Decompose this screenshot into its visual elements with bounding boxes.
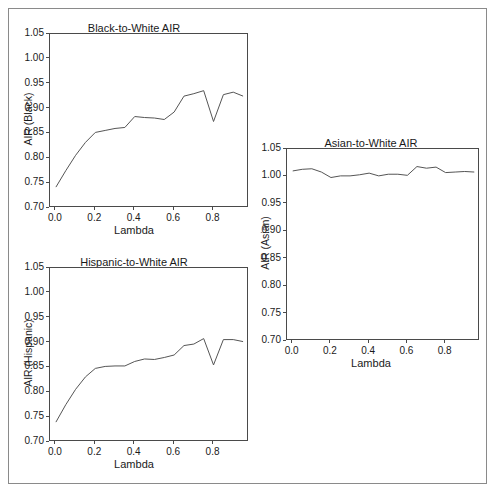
y-tick-mark: [46, 107, 49, 108]
x-tick-label: 0.4: [120, 212, 148, 223]
y-tick-mark: [283, 175, 286, 176]
y-tick-label: 0.90: [250, 224, 281, 235]
x-tick-label: 0.2: [80, 212, 108, 223]
y-tick-mark: [46, 82, 49, 83]
x-tick-label: 0.6: [159, 212, 187, 223]
y-tick-label: 0.80: [250, 279, 281, 290]
x-axis-label-hispanic: Lambda: [14, 458, 254, 470]
x-tick-label: 0.0: [41, 446, 69, 457]
x-tick-mark: [329, 340, 330, 343]
x-tick-label: 0.2: [80, 446, 108, 457]
y-axis-label-hispanic: AIR (Hispanic): [22, 318, 34, 388]
y-tick-mark: [46, 132, 49, 133]
y-tick-label: 1.00: [13, 52, 44, 63]
y-tick-label: 1.00: [13, 286, 44, 297]
x-tick-mark: [173, 441, 174, 444]
y-tick-mark: [46, 267, 49, 268]
plot-area-black: [49, 33, 248, 207]
y-tick-mark: [46, 57, 49, 58]
y-tick-mark: [283, 340, 286, 341]
y-tick-label: 1.05: [13, 261, 44, 272]
x-tick-label: 0.6: [159, 446, 187, 457]
x-tick-mark: [291, 340, 292, 343]
y-axis-label-black: AIR (Black): [22, 84, 34, 154]
x-tick-mark: [444, 340, 445, 343]
x-tick-mark: [212, 441, 213, 444]
x-tick-mark: [173, 207, 174, 210]
y-tick-label: 0.75: [250, 307, 281, 318]
y-tick-mark: [46, 341, 49, 342]
x-tick-mark: [54, 207, 55, 210]
y-tick-mark: [46, 33, 49, 34]
y-tick-label: 0.75: [13, 410, 44, 421]
y-tick-label: 0.70: [13, 201, 44, 212]
y-tick-label: 0.90: [13, 336, 44, 347]
y-tick-mark: [283, 202, 286, 203]
y-tick-mark: [283, 285, 286, 286]
y-tick-label: 1.00: [250, 169, 281, 180]
y-tick-mark: [283, 148, 286, 149]
x-tick-label: 0.2: [316, 345, 344, 356]
x-tick-label: 0.8: [199, 446, 227, 457]
x-tick-mark: [406, 340, 407, 343]
y-tick-label: 0.75: [13, 176, 44, 187]
y-tick-label: 0.70: [13, 435, 44, 446]
chart-panel-asian: Asian-to-White AIR AIR (Asian) Lambda 0.…: [251, 137, 491, 361]
x-tick-mark: [133, 207, 134, 210]
y-tick-mark: [46, 316, 49, 317]
y-tick-mark: [283, 312, 286, 313]
x-tick-label: 0.6: [392, 345, 420, 356]
y-axis-label-asian: AIR (Asian): [259, 208, 271, 278]
x-tick-label: 0.8: [431, 345, 459, 356]
y-tick-mark: [46, 416, 49, 417]
plot-area-asian: [286, 148, 479, 340]
data-line-hispanic: [50, 268, 249, 442]
x-tick-mark: [94, 441, 95, 444]
y-tick-label: 1.05: [13, 27, 44, 38]
chart-panel-hispanic: Hispanic-to-White AIR AIR (Hispanic) Lam…: [14, 256, 254, 480]
x-axis-label-asian: Lambda: [251, 357, 491, 369]
y-tick-label: 0.85: [13, 360, 44, 371]
x-tick-label: 0.4: [354, 345, 382, 356]
y-tick-label: 0.70: [250, 334, 281, 345]
y-tick-label: 0.80: [13, 151, 44, 162]
y-tick-label: 0.90: [13, 102, 44, 113]
y-tick-mark: [46, 441, 49, 442]
y-tick-mark: [46, 157, 49, 158]
y-tick-label: 0.85: [250, 252, 281, 263]
chart-panel-black: Black-to-White AIR AIR (Black) Lambda 0.…: [14, 22, 254, 246]
data-line-black: [50, 34, 249, 208]
x-tick-label: 0.4: [120, 446, 148, 457]
y-tick-mark: [46, 182, 49, 183]
y-tick-mark: [46, 366, 49, 367]
y-tick-label: 0.95: [13, 311, 44, 322]
y-tick-mark: [283, 257, 286, 258]
y-tick-label: 0.95: [13, 77, 44, 88]
y-tick-label: 0.85: [13, 126, 44, 137]
x-tick-mark: [212, 207, 213, 210]
y-tick-mark: [46, 207, 49, 208]
x-tick-mark: [94, 207, 95, 210]
y-tick-label: 1.05: [250, 142, 281, 153]
x-tick-mark: [368, 340, 369, 343]
x-axis-label-black: Lambda: [14, 224, 254, 236]
x-tick-label: 0.8: [199, 212, 227, 223]
plot-area-hispanic: [49, 267, 248, 441]
y-tick-mark: [46, 291, 49, 292]
x-tick-label: 0.0: [41, 212, 69, 223]
y-tick-label: 0.80: [13, 385, 44, 396]
x-tick-label: 0.0: [278, 345, 306, 356]
x-tick-mark: [54, 441, 55, 444]
data-line-asian: [287, 149, 480, 341]
x-tick-mark: [133, 441, 134, 444]
y-tick-label: 0.95: [250, 197, 281, 208]
y-tick-mark: [46, 391, 49, 392]
figure-canvas: Black-to-White AIR AIR (Black) Lambda 0.…: [0, 0, 495, 493]
y-tick-mark: [283, 230, 286, 231]
